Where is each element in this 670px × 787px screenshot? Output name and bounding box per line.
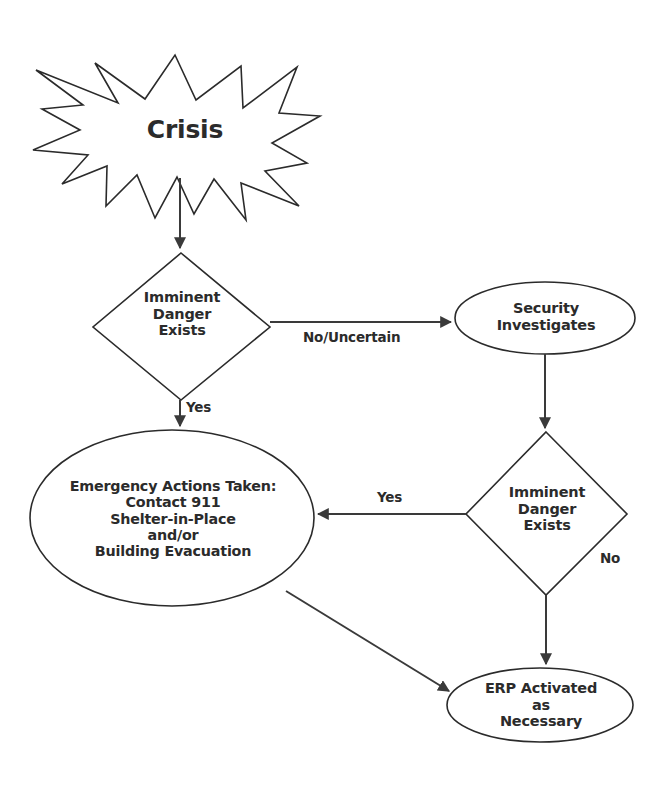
flowchart-vector-layer <box>0 0 670 787</box>
edge-emergency-to-erp <box>286 591 449 691</box>
node-imminent-danger-2-shape[interactable] <box>466 432 627 595</box>
node-imminent-danger-1-shape[interactable] <box>93 253 270 400</box>
edge-label-no-diamond2: No <box>600 550 620 566</box>
edge-label-no-uncertain: No/Uncertain <box>303 329 400 345</box>
node-emergency-actions-shape[interactable] <box>30 430 314 606</box>
flowchart-canvas: Crisis Imminent Danger Exists Security I… <box>0 0 670 787</box>
edge-label-yes-diamond2: Yes <box>377 489 402 505</box>
node-erp-activated-shape[interactable] <box>447 668 633 742</box>
node-crisis-shape[interactable] <box>33 55 320 220</box>
edge-label-yes-diamond1: Yes <box>186 399 211 415</box>
node-security-investigates-shape[interactable] <box>455 282 635 354</box>
